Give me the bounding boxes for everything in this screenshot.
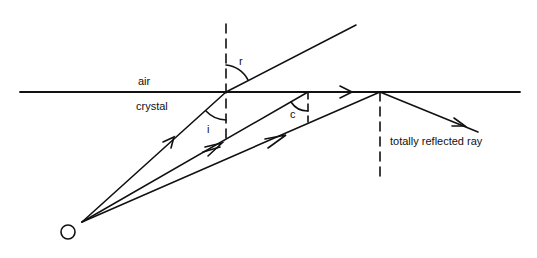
label-angle-c: c xyxy=(290,108,296,120)
label-reflected-ray: totally reflected ray xyxy=(390,135,483,147)
incident-ray-3 xyxy=(82,92,380,222)
incident-ray-2 xyxy=(82,92,308,222)
label-angle-i: i xyxy=(207,123,209,135)
refracted-ray xyxy=(226,25,356,92)
angle-r-arc xyxy=(226,65,248,80)
label-crystal: crystal xyxy=(136,100,168,112)
label-angle-r: r xyxy=(239,55,243,67)
source-point-icon xyxy=(61,225,75,239)
label-air: air xyxy=(138,75,151,87)
refraction-diagram: air crystal r i c totally reflected ray xyxy=(0,0,537,258)
angle-i-arc xyxy=(206,111,226,120)
